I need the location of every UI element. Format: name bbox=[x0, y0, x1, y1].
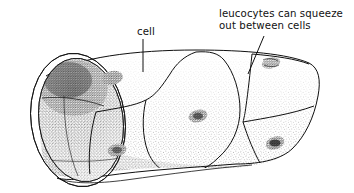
vessel-diagram: cell leucocytes can squeeze out between … bbox=[0, 0, 354, 193]
leucocyte-label-line-2: out between cells bbox=[219, 20, 311, 31]
figure-canvas: cell leucocytes can squeeze out between … bbox=[0, 0, 354, 193]
leucocyte-label-line-1: leucocytes can squeeze bbox=[219, 8, 343, 19]
cell-label: cell bbox=[137, 26, 155, 37]
leucocyte-label: leucocytes can squeeze out between cells bbox=[219, 8, 343, 31]
